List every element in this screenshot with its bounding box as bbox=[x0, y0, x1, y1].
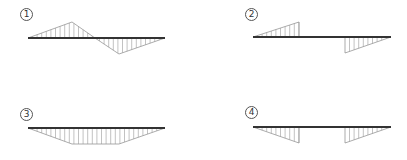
diagram-number-1: 1 bbox=[20, 8, 33, 21]
diagram-4 bbox=[253, 127, 391, 143]
diagram-3 bbox=[28, 128, 165, 144]
diagram-area bbox=[28, 22, 95, 38]
diagram-2 bbox=[253, 22, 391, 53]
diagram-number-2: 2 bbox=[245, 8, 258, 21]
diagram-1 bbox=[28, 22, 165, 54]
diagram-area bbox=[28, 128, 165, 144]
moment-diagrams bbox=[0, 0, 407, 160]
diagram-number-3: 3 bbox=[20, 108, 33, 121]
diagram-number-4: 4 bbox=[245, 106, 258, 119]
